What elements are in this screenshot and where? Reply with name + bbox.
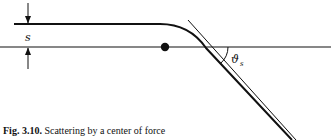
lower-arrow-head [25, 48, 31, 56]
angle-label: ϑs [231, 53, 244, 68]
scattering-diagram: s ϑs [0, 0, 331, 140]
angle-subscript: s [240, 60, 244, 68]
caption-label: Fig. 3.10. [3, 125, 42, 136]
force-center-dot [161, 43, 169, 51]
asymptote-line [188, 20, 296, 140]
trajectory-curve [14, 24, 292, 140]
figure-caption: Fig. 3.10. Scattering by a center of for… [3, 125, 165, 136]
angle-symbol: ϑ [231, 53, 239, 66]
upper-arrow-head [25, 16, 31, 24]
impact-parameter-label: s [25, 31, 31, 44]
caption-text: Scattering by a center of force [44, 125, 165, 136]
